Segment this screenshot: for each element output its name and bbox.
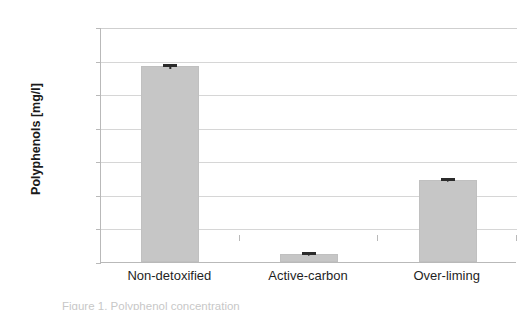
x-tick-mark: [239, 235, 240, 241]
bar-non-detoxified: [141, 66, 199, 262]
y-tick-mark: [96, 229, 101, 230]
y-tick-mark: [96, 129, 101, 130]
y-tick-mark: [96, 28, 101, 29]
y-tick-mark: [96, 62, 101, 63]
bar-over-liming: [419, 180, 477, 262]
plot-area: [100, 28, 516, 263]
x-tick-label: Over-liming: [367, 268, 527, 283]
error-bar-cap: [302, 252, 316, 255]
x-tick-label: Non-detoxified: [89, 268, 249, 283]
y-axis-title: Polyphenols [mg/l]: [29, 29, 43, 249]
y-tick-mark: [96, 263, 101, 264]
figure-caption: Figure 1. Polyphenol concentration: [62, 300, 240, 310]
y-tick-mark: [96, 196, 101, 197]
x-tick-mark: [377, 235, 378, 241]
error-bar-cap: [163, 64, 177, 67]
x-tick-mark: [100, 235, 101, 241]
x-tick-mark: [516, 235, 517, 241]
error-bar-cap: [441, 178, 455, 181]
bar-chart: Polyphenols [mg/l] 020040060080010001200…: [0, 0, 529, 310]
gridline: [101, 62, 517, 63]
gridline: [101, 28, 517, 29]
y-tick-mark: [96, 162, 101, 163]
plot-inner: [101, 28, 516, 262]
y-tick-mark: [96, 95, 101, 96]
x-tick-label: Active-carbon: [228, 268, 388, 283]
